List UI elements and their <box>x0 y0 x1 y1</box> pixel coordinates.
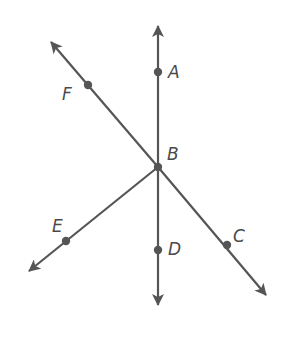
point-e <box>62 237 70 245</box>
label-e: E <box>52 218 63 235</box>
geometry-diagram: A B C D E F <box>0 0 286 341</box>
diagram-svg <box>0 0 286 341</box>
point-c <box>223 241 231 249</box>
point-f <box>84 81 92 89</box>
label-a: A <box>168 64 180 81</box>
point-a <box>154 68 162 76</box>
ray-bf <box>51 42 158 167</box>
label-b: B <box>167 146 179 163</box>
label-c: C <box>233 228 245 245</box>
ray-be <box>29 167 158 271</box>
point-d <box>154 246 162 254</box>
point-b <box>154 163 162 171</box>
label-f: F <box>62 86 72 103</box>
label-d: D <box>168 241 181 258</box>
ray-bc <box>158 167 266 295</box>
